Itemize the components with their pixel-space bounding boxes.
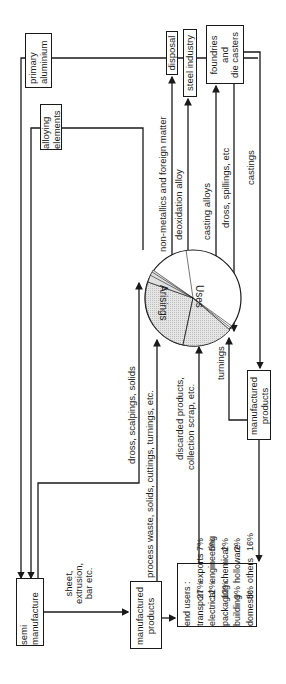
flow-label-turnings: turnings xyxy=(216,346,226,380)
pie-label-uses: Uses xyxy=(194,285,204,308)
flow-label-process-waste: process waste, solids, cuttings, turning… xyxy=(145,390,155,578)
end-users-row: domestic8%others16% xyxy=(244,540,257,626)
steel-industry-label: steel industry xyxy=(185,30,196,96)
end-users-row: building9%holloware2% xyxy=(231,540,244,626)
pie-label-arisings: Arisings xyxy=(158,285,168,321)
alloying-elements-label: alloying elements xyxy=(41,105,62,149)
semi-manufacture-box: semi manufacture xyxy=(16,578,44,646)
flow-label-discarded-2: collection scrap, etc. xyxy=(186,384,196,470)
primary-aluminium-box: primary aluminium xyxy=(25,33,52,88)
steel-industry-box: steel industry xyxy=(183,29,197,97)
end-users-box: end users : transport27%exports7% electr… xyxy=(177,563,257,627)
end-users-row: packaging12%chemical2% xyxy=(219,540,232,626)
end-users-title: end users : xyxy=(181,540,194,626)
end-users-table: end users : transport27%exports7% electr… xyxy=(181,540,256,626)
flow-label-casting-alloys: casting alloys xyxy=(202,183,212,240)
disposal-label: disposal xyxy=(167,32,178,74)
flow-label-castings: castings xyxy=(246,150,256,185)
flow-label-non-metallics: non-metallics and foreign matter xyxy=(158,116,168,252)
foundries-label: foundries and die casters xyxy=(209,27,241,83)
end-users-row: transport27%exports7% xyxy=(194,540,207,626)
manufactured-products-left-box: manufactured products xyxy=(130,581,162,649)
foundries-box: foundries and die casters xyxy=(206,25,244,84)
flow-label-dross-spillings: dross, spillings, etc xyxy=(221,148,231,228)
flow-label-discarded-1: discarded products, xyxy=(175,377,185,460)
manufactured-products-right-label: manufactured products xyxy=(249,373,270,439)
end-users-row: electrical12%engineering5% xyxy=(206,540,219,626)
primary-aluminium-label: primary aluminium xyxy=(28,38,49,84)
flow-label-deoxidation: deoxidation alloy xyxy=(174,169,184,240)
semi-manufacture-label: semi manufacture xyxy=(19,581,40,645)
alloying-elements-box: alloying elements xyxy=(40,104,62,150)
flow-label-dross-scalpings: dross, scalpings, solids xyxy=(127,366,137,464)
manufactured-products-left-label: manufactured products xyxy=(135,584,156,648)
manufactured-products-right-box: manufactured products xyxy=(247,370,271,440)
disposal-box: disposal xyxy=(166,31,178,75)
flow-label-sheet: sheet, extrusion, bar etc. xyxy=(64,561,94,606)
